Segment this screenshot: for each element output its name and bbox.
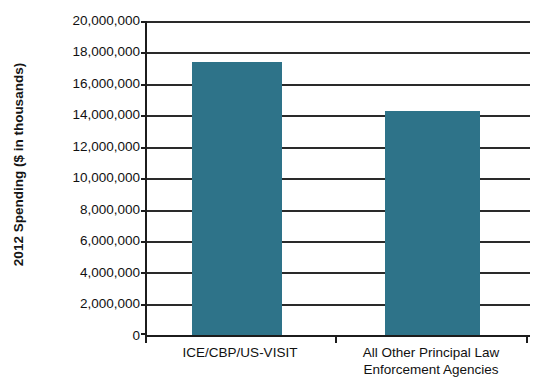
gridline: [147, 21, 530, 23]
y-tick-mark: [141, 304, 147, 306]
y-tick-label: 4,000,000: [32, 266, 140, 280]
x-category-label-line: ICE/CBP/US-VISIT: [183, 345, 298, 360]
y-tick-mark: [141, 115, 147, 117]
gridline: [147, 52, 530, 54]
y-axis-title: 2012 Spending ($ in thousands): [11, 15, 26, 315]
x-category-label-ice: ICE/CBP/US-VISIT: [145, 344, 335, 361]
x-category-label-line: Enforcement Agencies: [363, 362, 498, 377]
x-category-label-line: All Other Principal Law: [363, 345, 500, 360]
x-axis-tick-marks: [145, 335, 530, 343]
x-axis-category-labels: ICE/CBP/US-VISIT All Other Principal Law…: [145, 344, 530, 392]
y-tick-label: 8,000,000: [32, 203, 140, 217]
y-tick-label: 2,000,000: [32, 297, 140, 311]
y-axis-tick-labels: 20,000,000 18,000,000 16,000,000 14,000,…: [32, 0, 140, 392]
y-tick-label: 16,000,000: [32, 77, 140, 91]
y-tick-mark: [141, 52, 147, 54]
y-tick-label: 6,000,000: [32, 234, 140, 248]
x-category-label-other: All Other Principal Law Enforcement Agen…: [335, 344, 527, 378]
y-tick-mark: [141, 84, 147, 86]
y-tick-label: 10,000,000: [32, 171, 140, 185]
y-tick-mark: [141, 272, 147, 274]
y-tick-label: 12,000,000: [32, 140, 140, 154]
y-tick-mark: [141, 178, 147, 180]
x-tick-mark: [145, 335, 147, 343]
y-tick-mark: [141, 147, 147, 149]
x-tick-mark: [526, 335, 528, 343]
y-tick-label: 14,000,000: [32, 108, 140, 122]
y-tick-label: 18,000,000: [32, 45, 140, 59]
y-tick-mark: [141, 241, 147, 243]
y-tick-mark: [141, 21, 147, 23]
bar-chart-figure: 2012 Spending ($ in thousands) 20,000,00…: [0, 0, 536, 392]
x-tick-mark: [335, 335, 337, 343]
y-tick-label: 0: [32, 329, 140, 343]
bar-ice-cbp-us-visit: [192, 62, 282, 335]
bar-all-other-agencies: [385, 111, 480, 336]
y-tick-mark: [141, 210, 147, 212]
y-tick-label: 20,000,000: [32, 14, 140, 28]
plot-area: [145, 21, 530, 335]
